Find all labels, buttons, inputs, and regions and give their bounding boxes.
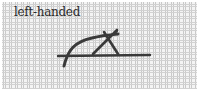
thread-paths	[0, 0, 201, 93]
stitch-diagram: left-handed	[0, 0, 201, 93]
horizontal-thread	[58, 55, 150, 56]
